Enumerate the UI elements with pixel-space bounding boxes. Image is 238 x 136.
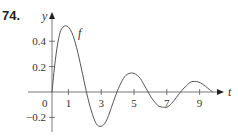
y-tick-label: −0.2 [26,111,46,123]
x-tick-label: 5 [131,97,137,109]
y-axis-arrow-icon [49,12,55,19]
series-f-line [52,26,213,127]
x-axis-label: t [228,85,232,99]
y-tick-label: 0.2 [32,61,46,73]
x-tick-label: 3 [98,97,104,109]
x-axis-arrow-icon [217,89,224,95]
origin-label: 0 [42,97,48,109]
x-tick-label: 9 [197,97,203,109]
chart: 74. 135790.40.2−0.2 y t f 0 [0,0,238,136]
x-tick-label: 1 [66,97,72,109]
y-axis-label: y [41,9,48,23]
y-tick-label: 0.4 [32,35,46,47]
curve-label-f: f [78,26,83,40]
problem-number: 74. [2,8,20,23]
